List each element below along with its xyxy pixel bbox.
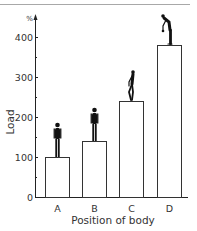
bending-figure-c-icon [129, 70, 135, 100]
category-label-b: B [91, 203, 98, 214]
bar-chart: 0 100 200 300 400 % Load [0, 0, 197, 231]
bar-d [158, 46, 182, 198]
standing-figure-b-icon [91, 108, 99, 141]
ytick-label-400: 400 [15, 32, 33, 43]
y-unit-label: % [26, 15, 33, 23]
category-label-c: C [128, 203, 135, 214]
lifting-figure-d-icon [161, 14, 172, 44]
bar-c [120, 102, 144, 198]
category-label-d: D [166, 203, 173, 214]
x-axis-label: Position of body [71, 214, 155, 226]
ytick-label-200: 200 [15, 112, 33, 123]
y-axis-label: Load [4, 109, 16, 134]
y-axis-arrow-icon [34, 14, 38, 20]
category-label-a: A [54, 203, 61, 214]
standing-figure-a-icon [54, 123, 62, 157]
ytick-label-300: 300 [15, 72, 33, 83]
bar-b [83, 142, 107, 198]
ytick-label-100: 100 [15, 152, 33, 163]
bar-a [46, 158, 70, 198]
ytick-label-0: 0 [27, 192, 33, 203]
